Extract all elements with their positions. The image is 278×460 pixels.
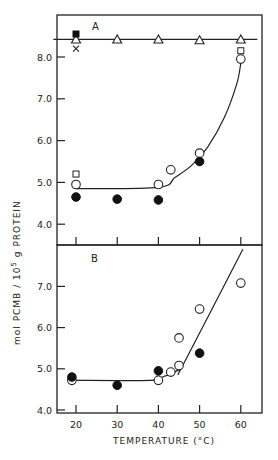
panel-b-label: B — [91, 253, 98, 264]
filled-circle-marker — [68, 373, 77, 382]
open-circle-marker — [175, 334, 184, 343]
y-tick-label: 7.0 — [37, 93, 52, 104]
x-tick-label: 50 — [194, 419, 206, 430]
open-square-marker — [238, 48, 244, 54]
open-circle-marker — [166, 166, 175, 175]
y-tick-label: 6.0 — [37, 135, 52, 146]
x-tick-label: 20 — [70, 419, 82, 430]
panel-b: 4.05.06.07.02030405060 — [37, 245, 262, 430]
open-square-marker — [73, 171, 79, 177]
filled-circle-marker — [195, 157, 204, 166]
panel-a-label: A — [92, 21, 99, 32]
filled-circle-marker — [113, 195, 122, 204]
y-axis-title-rest: g PROTEIN — [12, 200, 22, 261]
open-circle-marker — [154, 376, 163, 385]
y-axis-title: mol PCMB / 105 g PROTEIN — [10, 200, 22, 345]
filled-circle-marker — [113, 381, 122, 390]
open-circle-marker — [166, 368, 175, 377]
x-tick-label: 30 — [111, 419, 123, 430]
x-axis-title: TEMPERATURE (°C) — [112, 436, 215, 446]
y-tick-label: 5.0 — [37, 363, 52, 374]
open-circle-marker — [154, 180, 163, 189]
cross-marker — [73, 46, 79, 52]
y-tick-label: 4.0 — [37, 219, 52, 230]
filled-circle-marker — [154, 196, 163, 205]
filled-circle-marker — [154, 367, 163, 376]
y-axis-title-main: mol PCMB / 10 — [12, 267, 22, 346]
filled-circle-marker — [195, 349, 204, 358]
panel-a: 4.05.06.07.08.0 — [37, 15, 262, 245]
filled-circle-marker — [72, 193, 81, 202]
y-tick-label: 6.0 — [37, 322, 52, 333]
open-circle-marker — [72, 180, 81, 189]
open-circle-marker — [175, 361, 184, 370]
y-tick-label: 5.0 — [37, 177, 52, 188]
open-circle-marker — [237, 55, 246, 64]
y-tick-label: 7.0 — [37, 281, 52, 292]
x-tick-label: 40 — [152, 419, 164, 430]
y-tick-label: 8.0 — [37, 52, 52, 63]
plot-frame — [57, 15, 262, 245]
plot-frame — [57, 245, 262, 413]
open-circle-marker — [195, 149, 204, 158]
chart: 4.05.06.07.08.0 4.05.06.07.02030405060 A… — [0, 0, 278, 460]
fit-line — [72, 249, 243, 380]
y-tick-label: 4.0 — [37, 405, 52, 416]
open-circle-marker — [237, 279, 246, 288]
filled-square-marker — [73, 31, 80, 38]
fit-line — [76, 63, 241, 188]
open-circle-marker — [195, 305, 204, 314]
x-tick-label: 60 — [235, 419, 247, 430]
